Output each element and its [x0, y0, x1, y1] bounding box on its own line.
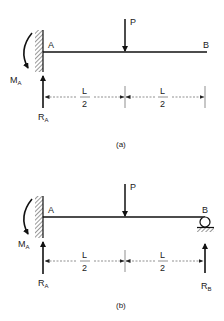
beam-diagrams: P A B MA RA L 2 L 2 (a) P A: [0, 0, 224, 321]
fixed-wall-hatch: [35, 196, 43, 238]
caption-b: (b): [116, 301, 126, 310]
caption-a: (a): [116, 140, 126, 149]
reaction-a-label: RA: [38, 112, 49, 123]
dim-right-numerator: L: [160, 86, 165, 96]
roller-support-icon: [200, 217, 210, 227]
point-b-label: B: [202, 205, 208, 215]
reaction-a-label: RA: [38, 278, 49, 289]
dim-left-denominator: 2: [82, 99, 87, 109]
roller-ground-hatch: [197, 228, 214, 232]
reaction-b-label: RB: [201, 281, 212, 292]
diagram-b: P A B MA RA RB L 2 L 2 (b): [18, 182, 214, 310]
load-label: P: [130, 182, 136, 192]
moment-label: MA: [10, 75, 22, 86]
dim-right-numerator: L: [160, 250, 165, 260]
moment-label: MA: [18, 239, 30, 250]
dim-left-denominator: 2: [82, 263, 87, 273]
dim-right-denominator: 2: [160, 263, 165, 273]
point-a-label: A: [48, 205, 54, 215]
diagram-a: P A B MA RA L 2 L 2 (a): [10, 17, 209, 149]
fixed-wall-hatch: [35, 30, 43, 72]
moment-arrow-icon: [24, 33, 32, 68]
point-b-label: B: [203, 40, 209, 50]
dim-left-numerator: L: [82, 86, 87, 96]
dim-right-denominator: 2: [160, 99, 165, 109]
moment-arrow-icon: [24, 199, 32, 234]
point-a-label: A: [48, 40, 54, 50]
load-label: P: [130, 17, 136, 27]
dim-left-numerator: L: [82, 250, 87, 260]
